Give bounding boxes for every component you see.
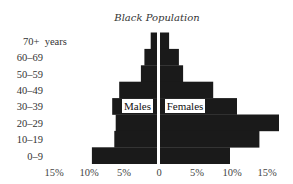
age-label-0: 70+ years: [23, 36, 67, 47]
bar-females-6: [160, 131, 259, 148]
age-label-5: 20–29: [17, 118, 43, 129]
bar-females-1: [160, 49, 179, 66]
x-tick-labels-group: 15%10%5%05%10%15%: [44, 167, 277, 178]
bar-males-3: [119, 82, 157, 99]
bar-males-1: [144, 49, 157, 66]
bar-males-2: [141, 65, 157, 82]
females-label-box: Females: [165, 99, 205, 113]
age-labels-group: 70+ years60–6950–5940–4930–3920–2910–190…: [17, 36, 67, 162]
age-label-1: 60–69: [17, 52, 43, 63]
x-tick-left-2: 5%: [117, 167, 131, 178]
x-tick-left-1: 10%: [79, 167, 99, 178]
females-label: Females: [167, 100, 204, 112]
bar-females-3: [160, 82, 213, 99]
age-label-6: 10–19: [17, 134, 43, 145]
age-label-2: 50–59: [17, 69, 43, 80]
males-label-box: Males: [122, 99, 153, 113]
x-tick-left-0: 15%: [44, 167, 64, 178]
chart-title: Black Population: [113, 12, 199, 23]
x-tick-right-0: 0: [156, 167, 161, 178]
bars-group: [92, 33, 279, 165]
population-pyramid-chart: Black Population 70+ years60–6950–5940–4…: [0, 0, 293, 184]
bar-males-6: [114, 131, 157, 148]
bar-females-5: [160, 115, 279, 132]
bar-females-2: [160, 65, 183, 82]
bar-males-0: [151, 33, 157, 50]
bar-males-7: [92, 147, 157, 164]
males-label: Males: [124, 100, 151, 112]
age-label-4: 30–39: [17, 101, 43, 112]
age-label-3: 40–49: [17, 85, 43, 96]
x-tick-right-1: 5%: [190, 167, 204, 178]
age-label-7: 0–9: [27, 151, 43, 162]
x-tick-right-3: 15%: [257, 167, 277, 178]
x-tick-right-2: 10%: [222, 167, 242, 178]
bar-females-0: [160, 33, 169, 50]
bar-females-7: [160, 147, 230, 164]
bar-males-5: [116, 115, 157, 132]
